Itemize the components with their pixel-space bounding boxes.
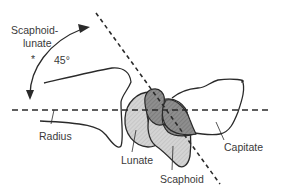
diagram-svg: Scaphoid- lunate * 45° Radius Lunate Sca… bbox=[0, 0, 282, 196]
arrowhead-top-icon bbox=[78, 24, 90, 33]
scaphoid-axis-dashed bbox=[96, 13, 220, 184]
angle-name-label-line1: Scaphoid- bbox=[11, 24, 59, 36]
radius-label: Radius bbox=[39, 130, 72, 142]
scapholunate-angle-diagram: Scaphoid- lunate * 45° Radius Lunate Sca… bbox=[0, 0, 282, 196]
arrowhead-bottom-icon bbox=[26, 90, 34, 100]
angle-name-label-line2: lunate bbox=[23, 37, 52, 49]
capitate-leader bbox=[216, 122, 224, 140]
asterisk-label: * bbox=[31, 53, 35, 65]
lunate-label: Lunate bbox=[121, 154, 153, 166]
capitate-label: Capitate bbox=[224, 141, 263, 153]
scaphoid-label: Scaphoid bbox=[160, 173, 204, 185]
angle-value-label: 45° bbox=[54, 54, 70, 66]
